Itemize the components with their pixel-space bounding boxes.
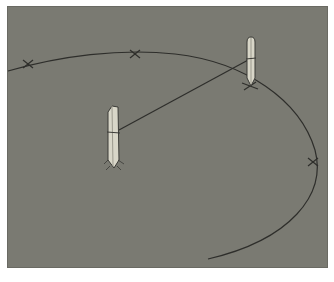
stake-left-icon (104, 106, 124, 170)
string-line (119, 59, 250, 130)
curve-mark-icon (308, 158, 318, 166)
stake-ellipse-diagram (0, 0, 334, 282)
curve-mark-icon (130, 50, 140, 58)
ellipse-curve (8, 52, 317, 259)
stake-right-icon (246, 37, 256, 86)
curve-mark-icon (23, 60, 33, 68)
